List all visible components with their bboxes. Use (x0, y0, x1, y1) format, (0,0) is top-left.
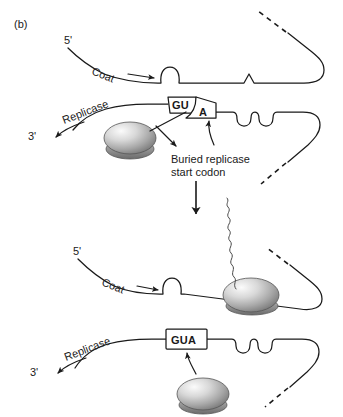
buried-codon-arrow-right (209, 121, 214, 145)
coat-pointer-arrow-bottom (137, 286, 158, 290)
folded-codon-box-top: GU A (168, 97, 216, 118)
exposed-codon-box-bottom: GUA (166, 329, 207, 349)
replicase-ribosome-bottom (177, 378, 229, 414)
replicase-strand-dashed-continuation-top (261, 163, 286, 184)
coat-ribosome-bottom (223, 278, 279, 315)
replicase-ribosome-top (104, 122, 156, 159)
coat-pointer-arrow-top (128, 74, 154, 78)
replicase-strand-right-bottom (207, 339, 319, 387)
buried-codon-arrow-left (156, 126, 176, 146)
five-prime-label-top: 5' (64, 34, 72, 46)
codon-box-text-primary: GUA (171, 334, 196, 346)
codon-box-text-primary: GU (172, 99, 189, 111)
codon-box-text-secondary: A (199, 106, 207, 118)
figure-panel-b: (b) 5' Coat 3' Replicase (0, 0, 343, 417)
coat-strand-dashed-continuation-bottom (267, 248, 288, 264)
coat-strand-dashed-continuation-top (258, 11, 286, 32)
replicase-ribosome-binding-arrow (187, 353, 196, 374)
ribosome-large-subunit (223, 278, 279, 312)
replicase-gene-label-top: Replicase (60, 97, 109, 126)
coat-gene-label-top: Coat (90, 65, 116, 85)
coat-gene-label-bottom: Coat (100, 276, 126, 296)
replicase-strand-dashed-continuation-bottom (265, 388, 288, 407)
panel-label: (b) (14, 18, 27, 30)
top-panel: 5' Coat 3' Replicase GU (28, 11, 324, 184)
ribosome-large-subunit (177, 378, 229, 410)
three-prime-label-top: 3' (28, 130, 36, 142)
replicase-pointer-arrow-top (56, 122, 84, 137)
buried-codon-annotation-line1: Buried replicase (171, 153, 250, 165)
bottom-panel: 5' Coat 3' Replicase (30, 198, 322, 414)
nascent-polypeptide-chain (227, 198, 236, 289)
five-prime-label-bottom: 5' (73, 245, 81, 257)
ribosome-codon-link-top (150, 112, 186, 131)
three-prime-label-bottom: 3' (30, 366, 38, 378)
replicase-gene-label-bottom: Replicase (62, 334, 111, 363)
buried-codon-annotation-line2: start codon (171, 166, 225, 178)
ribosome-large-subunit (104, 122, 156, 154)
